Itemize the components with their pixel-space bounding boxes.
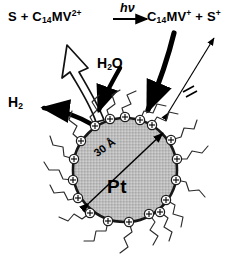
circled-plus-icon (124, 217, 133, 226)
relay-label: C (32, 9, 42, 24)
circled-plus-icon (172, 154, 181, 163)
circled-plus-icon (103, 216, 112, 225)
product-relay-charge: + (186, 8, 191, 18)
circled-plus-icon (166, 135, 175, 144)
black-curved-arrow-h2o-icon (99, 68, 120, 110)
circled-plus-icon (90, 121, 99, 130)
particle-label: Pt (107, 177, 127, 196)
hydrogen-h: H (8, 94, 18, 110)
circled-plus-icon (155, 207, 164, 216)
relay-subscript: 14 (42, 15, 52, 25)
circled-plus-icon (68, 175, 77, 184)
relay-rest: MV (52, 9, 72, 24)
product-sensitizer-label: S (207, 9, 216, 24)
water-h: H (97, 55, 107, 71)
figure-canvas: S + C14MV2+ hν C14MV+ + S+ H2O H2 Pt 30 … (0, 0, 248, 276)
diagram-svg (0, 0, 248, 276)
hydrogen-label: H2 (8, 95, 23, 111)
product-relay-rest: MV (166, 9, 186, 24)
hydrogen-subscript: 2 (18, 101, 23, 111)
water-label: H2O (97, 56, 123, 72)
equation-products: C14MV+ + S+ (147, 9, 221, 25)
black-curved-arrow-relay-icon (148, 33, 174, 110)
relay-charge: 2+ (72, 8, 82, 18)
water-o: O (112, 55, 123, 71)
circled-plus-icon (85, 208, 94, 217)
sensitizer-label: S (8, 9, 17, 24)
circled-plus-icon (144, 209, 153, 218)
circled-plus-icon (73, 193, 82, 202)
circled-plus-icon (147, 120, 156, 129)
photon-label: hν (120, 2, 135, 15)
product-sensitizer-charge: + (216, 8, 221, 18)
circled-plus-icon (105, 114, 114, 123)
circled-plus-icon (161, 195, 170, 204)
plus-sign-2: + (195, 9, 203, 24)
circled-plus-icon (120, 112, 129, 121)
circled-plus-icon (69, 154, 78, 163)
circled-plus-icon (171, 175, 180, 184)
equation-reactants: S + C14MV2+ (8, 9, 82, 25)
circled-plus-icon (76, 136, 85, 145)
plus-sign: + (21, 9, 29, 24)
blocked-double-arrow-icon (168, 38, 214, 113)
product-relay-label: C (147, 9, 157, 24)
circled-plus-icon (135, 115, 144, 124)
product-relay-subscript: 14 (157, 15, 167, 25)
